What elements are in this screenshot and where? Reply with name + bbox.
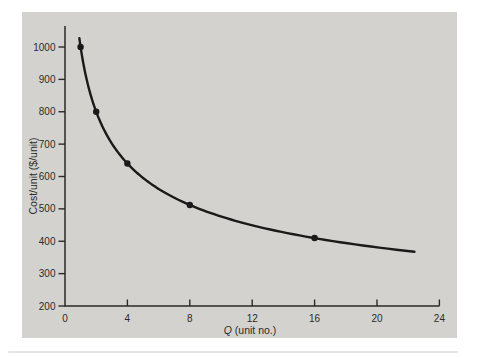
- axes-line: [65, 26, 439, 306]
- chart-canvas: [0, 0, 478, 357]
- data-point-marker: [93, 109, 99, 115]
- data-point-marker: [77, 44, 83, 50]
- scan-artifact-line: [8, 351, 458, 353]
- data-point-marker: [311, 235, 317, 241]
- learning-curve-figure: Cost/unit ($/unit) Q (unit no.) 20030040…: [0, 0, 478, 357]
- data-point-marker: [187, 202, 193, 208]
- data-point-marker: [124, 160, 130, 166]
- curve-line: [79, 38, 414, 252]
